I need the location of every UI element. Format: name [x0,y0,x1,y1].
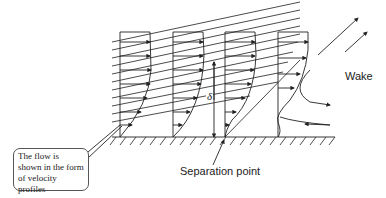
callout-text: The flow is shown in the form of velocit… [18,151,84,194]
velocity-profile-4 [278,32,309,137]
streamlines [112,2,300,137]
separation-point-label: Separation point [180,165,260,177]
separation-pointer [213,140,224,165]
wake-label: Wake [345,70,373,82]
callout-box: The flow is shown in the form of velocit… [13,148,89,191]
delta-label: δ [206,90,213,102]
callout-pointer [88,125,122,158]
